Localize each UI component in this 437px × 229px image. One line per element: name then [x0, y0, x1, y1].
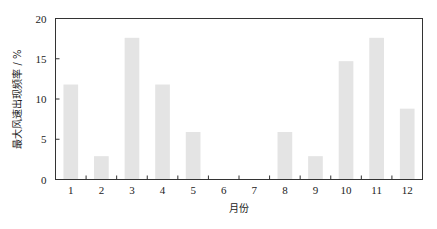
y-tick-label: 15: [36, 53, 48, 65]
y-tick-label: 5: [41, 133, 47, 145]
x-tick-label: 6: [221, 184, 227, 196]
y-tick-label: 10: [36, 93, 48, 105]
bar: [308, 156, 323, 179]
bar: [63, 85, 78, 180]
bars: [63, 38, 414, 180]
x-tick-label: 12: [402, 184, 413, 196]
y-tick-label: 0: [41, 174, 47, 186]
bar: [369, 38, 384, 180]
x-tick-label: 10: [341, 184, 353, 196]
x-tick-label: 8: [282, 184, 288, 196]
bar-chart: 05101520 123456789101112 月份 最大风速出现频率 / %: [0, 0, 437, 229]
x-tick-label: 5: [190, 184, 196, 196]
x-tick-label: 11: [371, 184, 382, 196]
plot-frame: [56, 19, 423, 180]
y-axis-title: 最大风速出现频率 / %: [11, 49, 23, 148]
x-tick-label: 3: [129, 184, 135, 196]
x-tick-label: 4: [160, 184, 166, 196]
bar: [125, 38, 140, 180]
bar: [278, 132, 293, 179]
x-tick-label: 2: [99, 184, 105, 196]
bar: [186, 132, 201, 179]
x-tick-label: 9: [313, 184, 319, 196]
x-tick-label: 7: [252, 184, 258, 196]
bar: [155, 85, 170, 180]
x-axis-title: 月份: [229, 203, 249, 214]
y-tick-label: 20: [36, 13, 48, 25]
x-axis-ticks: 123456789101112: [68, 176, 413, 197]
x-tick-label: 1: [68, 184, 74, 196]
bar: [94, 156, 109, 179]
bar: [339, 61, 354, 179]
bar: [400, 109, 415, 180]
